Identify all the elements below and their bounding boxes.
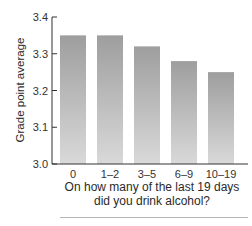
x-tick-label: 0 (70, 168, 76, 180)
x-axis: 01–23–56–910–19 (52, 164, 248, 180)
x-axis-title: On how many of the last 19 days did you … (52, 180, 252, 208)
y-tick-label: 3.0 (33, 158, 48, 170)
x-tick-label: 10–19 (206, 168, 237, 180)
x-tick-label: 3–5 (138, 168, 156, 180)
y-tick-label: 3.4 (33, 11, 48, 23)
bar-1–2 (97, 35, 123, 164)
y-tick-label: 3.2 (33, 85, 48, 97)
x-axis-title-line2: did you drink alcohol? (52, 194, 252, 208)
bar-0 (60, 35, 86, 164)
bar-10–19 (208, 72, 234, 164)
y-tick-label: 3.1 (33, 121, 48, 133)
bar-6–9 (171, 61, 197, 164)
x-axis-title-line1: On how many of the last 19 days (52, 180, 252, 194)
separator-line (60, 217, 248, 218)
bar-3–5 (134, 46, 160, 164)
y-axis-title: Grade point average (14, 38, 26, 143)
x-tick-label: 6–9 (175, 168, 193, 180)
x-tick-label: 1–2 (101, 168, 119, 180)
bars (60, 35, 234, 164)
y-axis: 3.03.13.23.33.4 (33, 11, 57, 170)
y-tick-label: 3.3 (33, 48, 48, 60)
